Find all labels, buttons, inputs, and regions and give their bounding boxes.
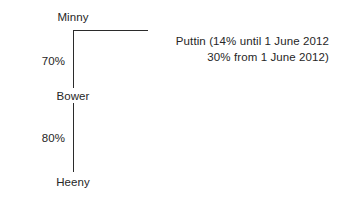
edge-label-minny-bower: 70%: [42, 54, 65, 68]
node-label-heeny: Heeny: [56, 175, 90, 189]
annotation-puttin: Puttin (14% until 1 June 2012 30% from 1…: [129, 33, 329, 65]
edge-label-bower-heeny: 80%: [42, 131, 65, 145]
connector-minny-to-puttin: [73, 30, 148, 31]
annotation-line-2: 30% from 1 June 2012): [129, 49, 329, 65]
annotation-line-1: Puttin (14% until 1 June 2012: [129, 33, 329, 49]
diagram-canvas: Minny 70% Bower 80% Heeny Puttin (14% un…: [0, 0, 354, 202]
node-label-bower: Bower: [56, 89, 89, 103]
connector-bower-to-heeny: [73, 103, 74, 172]
connector-minny-to-bower: [73, 30, 74, 88]
node-label-minny: Minny: [57, 10, 88, 24]
